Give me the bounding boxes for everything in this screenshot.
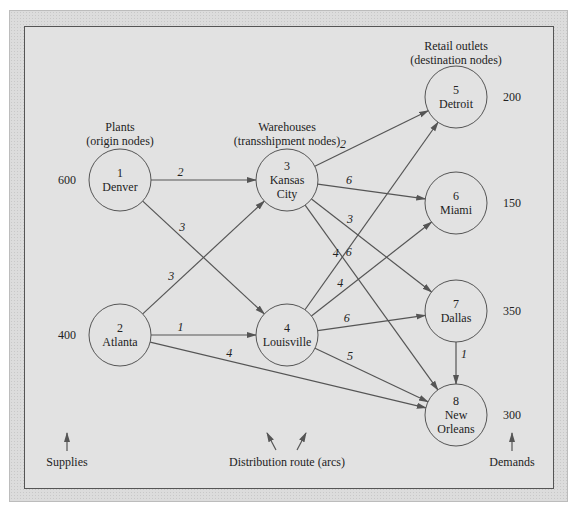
arc-cost-label: 3 <box>167 269 174 283</box>
demand-value: 150 <box>503 196 521 210</box>
node-name-line2: Orleans <box>437 422 475 436</box>
node-id: 7 <box>453 297 459 311</box>
node-id: 6 <box>453 189 459 203</box>
arc-4-6: 4 <box>311 222 431 316</box>
arc-cost-label: 2 <box>340 137 346 151</box>
node-name-line2: City <box>277 187 298 201</box>
node-name: Kansas <box>270 173 305 187</box>
node-id: 2 <box>117 321 123 335</box>
plants-title: Plants <box>105 120 135 134</box>
retail-title: Retail outlets <box>424 39 488 53</box>
arc-7-8: 1 <box>456 342 467 384</box>
arc-cost-label: 5 <box>347 349 353 363</box>
arc-cost-label: 2 <box>177 165 183 179</box>
warehouses-subtitle: (transshipment nodes) <box>234 134 340 148</box>
node-name: Miami <box>440 203 473 217</box>
retail-subtitle: (destination nodes) <box>410 53 502 67</box>
node-id: 5 <box>453 83 459 97</box>
node-name: Atlanta <box>102 335 138 349</box>
transshipment-network: 23314263644651 1Denver6002Atlanta4003Kan… <box>0 0 577 511</box>
arc-3-7: 3 <box>312 199 432 292</box>
demands-label: Demands <box>489 455 535 469</box>
node-name: New <box>445 408 468 422</box>
plants-subtitle: (origin nodes) <box>86 134 154 148</box>
arc-1-3: 2 <box>151 165 256 180</box>
arc-cost-label: 1 <box>177 320 183 334</box>
demand-value: 200 <box>503 90 521 104</box>
node-id: 3 <box>284 159 290 173</box>
warehouses-title: Warehouses <box>258 120 316 134</box>
node-id: 1 <box>117 166 123 180</box>
node-3: 3KansasCity <box>256 149 318 211</box>
supplies-label: Supplies <box>46 455 88 469</box>
arc-3-6: 6 <box>318 173 426 198</box>
node-1: 1Denver600 <box>58 149 151 211</box>
node-7: 7Dallas350 <box>425 280 521 342</box>
arc-2-4: 1 <box>151 320 256 335</box>
arc-cost-label: 3 <box>346 212 353 226</box>
node-4: 4Louisville <box>256 304 318 366</box>
node-5: 5Detroit200 <box>425 66 521 128</box>
node-id: 4 <box>284 321 290 335</box>
arc-cost-label: 1 <box>461 347 467 361</box>
arc-cost-label: 6 <box>344 311 350 325</box>
arc-cost-label: 4 <box>226 346 232 360</box>
node-6: 6Miami150 <box>425 172 521 234</box>
node-name: Dallas <box>441 311 472 325</box>
routes-label: Distribution route (arcs) <box>229 455 345 469</box>
demand-value: 350 <box>503 304 521 318</box>
arc-4-8: 5 <box>315 348 428 401</box>
arc-cost-label: 3 <box>178 220 185 234</box>
node-2: 2Atlanta400 <box>58 304 151 366</box>
route-arrows-icon <box>267 433 306 450</box>
node-id: 8 <box>453 394 459 408</box>
supply-value: 600 <box>58 173 76 187</box>
arc-cost-label: 4 <box>337 276 343 290</box>
node-8: 8NewOrleans300 <box>425 384 521 446</box>
arc-cost-label: 4 <box>333 246 339 260</box>
node-name: Detroit <box>439 97 474 111</box>
supply-value: 400 <box>58 328 76 342</box>
arc-cost-label: 6 <box>346 173 352 187</box>
node-name: Louisville <box>263 335 312 349</box>
arc-4-7: 6 <box>318 311 426 330</box>
node-name: Denver <box>102 180 137 194</box>
demand-value: 300 <box>503 408 521 422</box>
